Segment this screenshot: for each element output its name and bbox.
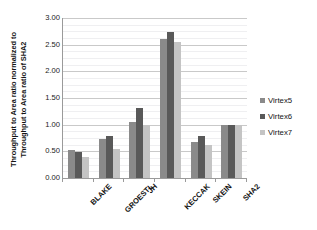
bar-virtex6-jh <box>136 108 143 178</box>
bar-virtex5-sha2 <box>221 125 228 178</box>
bar-group <box>216 18 247 178</box>
y-axis-title-line-2: Throughput to Area ratio of SHA2 <box>19 12 29 188</box>
legend-swatch-icon <box>260 114 265 119</box>
y-axis-title: Throughput to Area ratio normalized to T… <box>9 12 28 188</box>
bar-group <box>186 18 217 178</box>
bar-virtex7-keccak <box>174 42 181 178</box>
bar-group <box>94 18 125 178</box>
bar-virtex6-skein <box>198 136 205 178</box>
bar-virtex6-sha2 <box>228 125 235 178</box>
bar-virtex5-blake <box>68 150 75 178</box>
bar-virtex6-blake <box>75 152 82 178</box>
x-axis-label-blake: BLAKE <box>89 182 114 207</box>
y-axis-tick-label: 1.00 <box>30 121 60 129</box>
bar-groups <box>63 18 247 178</box>
legend-item-virtex7[interactable]: Virtex7 <box>260 124 316 140</box>
x-axis-label-keccak: KECCAK <box>183 182 212 211</box>
x-axis-category-labels: BLAKEGROESTLJHKECCAKSKEINSHA2 <box>62 182 247 228</box>
y-axis-tick-labels: 0.000.501.001.502.002.503.00 <box>30 14 60 179</box>
top-text-fragment <box>6 0 116 8</box>
y-axis-tick-label: 0.50 <box>30 147 60 155</box>
bar-chart: Throughput to Area ratio normalized to T… <box>0 0 317 230</box>
bar-virtex5-jh <box>129 122 136 178</box>
bar-virtex5-skein <box>191 142 198 178</box>
legend-item-virtex5[interactable]: Virtex5 <box>260 92 316 108</box>
bar-virtex5-groestl <box>99 139 106 178</box>
bar-virtex7-jh <box>143 125 150 178</box>
legend-label: Virtex6 <box>268 112 292 121</box>
bar-group <box>63 18 94 178</box>
legend-label: Virtex7 <box>268 128 292 137</box>
bar-virtex6-groestl <box>106 136 113 178</box>
bar-group <box>155 18 186 178</box>
y-axis-tick-label: 3.00 <box>30 14 60 22</box>
legend-swatch-icon <box>260 130 265 135</box>
y-axis-tick-label: 0.00 <box>30 174 60 182</box>
bar-virtex5-keccak <box>160 39 167 178</box>
bar-virtex7-groestl <box>113 149 120 178</box>
bar-virtex6-keccak <box>167 32 174 178</box>
legend: Virtex5Virtex6Virtex7 <box>260 92 316 140</box>
x-axis-label-sha2: SHA2 <box>241 182 262 203</box>
x-axis-label-skein: SKEIN <box>211 182 234 205</box>
bar-virtex7-skein <box>205 145 212 178</box>
y-axis-tick-label: 1.50 <box>30 94 60 102</box>
y-axis-tick-label: 2.00 <box>30 67 60 75</box>
bar-group <box>124 18 155 178</box>
y-axis-tick-label: 2.50 <box>30 41 60 49</box>
legend-swatch-icon <box>260 98 265 103</box>
legend-label: Virtex5 <box>268 96 292 105</box>
y-axis-title-line-1: Throughput to Area ratio normalized to <box>9 12 19 188</box>
bar-virtex7-sha2 <box>235 125 242 178</box>
plot-area <box>62 18 247 179</box>
legend-item-virtex6[interactable]: Virtex6 <box>260 108 316 124</box>
bar-virtex7-blake <box>82 157 89 178</box>
